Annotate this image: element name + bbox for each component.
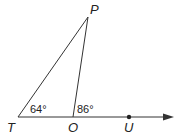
label-p: P [90, 3, 99, 16]
segment-tp [18, 17, 88, 117]
label-u: U [124, 121, 133, 134]
label-t: T [7, 121, 15, 134]
angle-o-label: 86° [77, 104, 94, 115]
point-u-dot [127, 115, 131, 119]
label-o: O [68, 121, 78, 134]
arrowhead-icon [163, 114, 174, 121]
angle-t-label: 64° [30, 104, 47, 115]
segment-po [73, 17, 88, 117]
